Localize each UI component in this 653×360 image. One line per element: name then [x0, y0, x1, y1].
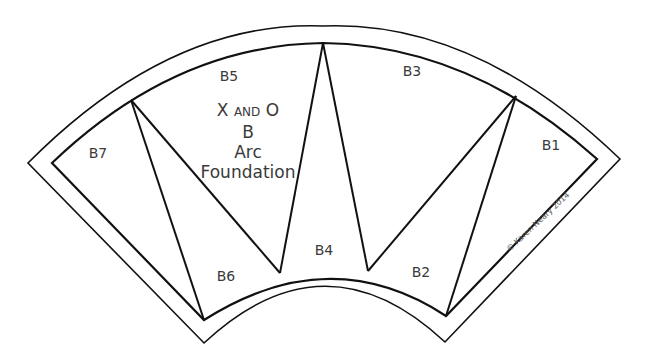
title-line-1: X AND O: [201, 100, 296, 122]
title-x: X: [217, 100, 229, 120]
piece-label-b4: B4: [315, 242, 334, 258]
title-line-2: B: [201, 122, 296, 142]
title-o: O: [266, 100, 279, 120]
piece-label-b7: B7: [89, 145, 108, 161]
piece-label-b1: B1: [542, 137, 561, 153]
piece-label-b2: B2: [412, 264, 431, 280]
piece-label-b6: B6: [217, 268, 236, 284]
inner-foundation-outline: [52, 43, 597, 320]
piece-label-b5: B5: [220, 68, 239, 84]
title-line-4: Foundation: [201, 162, 296, 182]
outer-seam-outline: [28, 26, 620, 343]
piece-label-b3: B3: [403, 63, 422, 79]
arc-foundation-pattern: [0, 0, 653, 360]
title-and: AND: [234, 105, 260, 119]
pattern-title: X AND O B Arc Foundation: [201, 100, 296, 182]
title-line-3: Arc: [201, 142, 296, 162]
